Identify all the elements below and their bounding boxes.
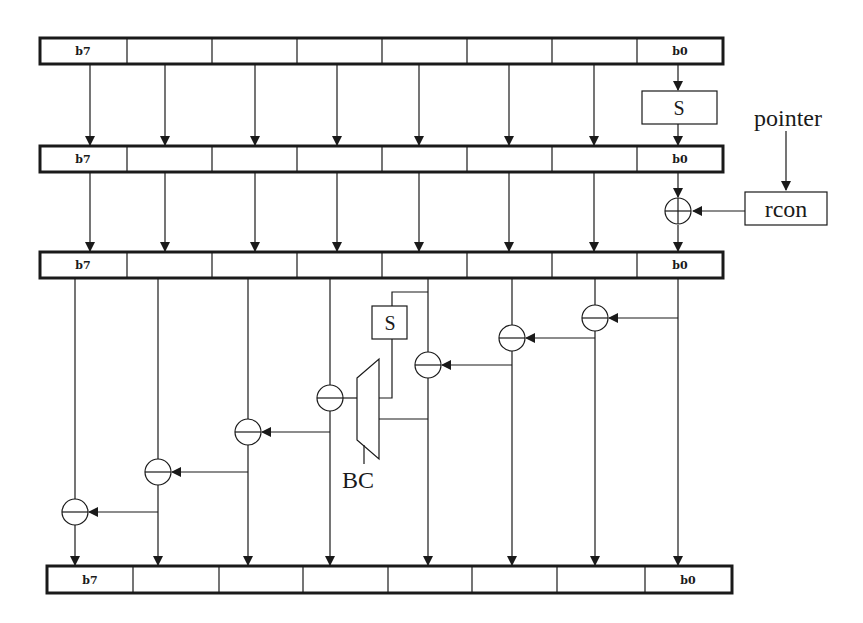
wires-reg2-to-reg3 (90, 172, 678, 251)
register-2: b7 b0 (40, 146, 723, 172)
sbox-mid: S (372, 292, 428, 398)
xor-chain-wires (89, 318, 678, 512)
sbox-mid-label: S (384, 312, 395, 334)
register-3: b7 b0 (40, 252, 723, 278)
register-1-msb-label: b7 (75, 45, 90, 58)
xor-node-2 (499, 325, 525, 351)
register-1-lsb-label: b0 (672, 45, 688, 58)
register-2-msb-label: b7 (75, 153, 90, 166)
register-2-lsb-label: b0 (672, 153, 688, 166)
register-4-lsb-label: b0 (680, 574, 696, 587)
register-4-msb-label: b7 (82, 574, 97, 587)
xor-node-1 (582, 305, 608, 331)
register-3-msb-label: b7 (75, 259, 90, 272)
rcon-label: rcon (765, 196, 808, 222)
register-4: b7 b0 (47, 566, 732, 593)
xor-node-6 (145, 459, 171, 485)
xor-rcon (665, 198, 691, 224)
register-1: b7 b0 (40, 38, 723, 64)
xor-node-5 (235, 419, 261, 445)
xor-node-4 (317, 385, 343, 411)
xor-node-7 (62, 499, 88, 525)
rcon-block: rcon (745, 192, 827, 225)
sbox-top: S (642, 91, 717, 124)
sbox-top-label: S (673, 97, 684, 119)
wires-reg1-to-reg2 (90, 64, 678, 145)
pointer-label: pointer (754, 105, 822, 131)
xor-node-3 (415, 352, 441, 378)
key-schedule-diagram: b7 b0 S b7 b0 pointer rcon (0, 0, 863, 623)
mux-bc: BC (342, 359, 428, 493)
mux-label: BC (342, 467, 374, 493)
register-3-lsb-label: b0 (672, 259, 688, 272)
